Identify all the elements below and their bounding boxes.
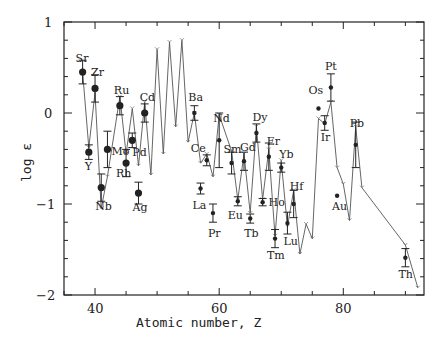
data-point-dy xyxy=(252,124,260,142)
model-curve xyxy=(81,38,420,288)
element-label-cd: Cd xyxy=(140,91,155,104)
element-label-au: Au xyxy=(331,200,347,213)
data-marker xyxy=(129,137,136,144)
element-label-ce: Ce xyxy=(191,142,206,155)
x-tick-label-40: 40 xyxy=(87,301,104,316)
data-marker xyxy=(354,143,358,147)
element-label-sr: Sr xyxy=(76,52,90,65)
data-marker xyxy=(322,121,326,125)
element-label-pd: Pd xyxy=(132,146,146,159)
y-tick-label-1: 1 xyxy=(44,15,52,30)
data-marker xyxy=(192,111,196,115)
data-marker xyxy=(85,149,92,156)
data-marker xyxy=(242,159,246,163)
element-label-ir: Ir xyxy=(321,131,331,144)
data-point-pt xyxy=(327,74,335,101)
element-label-zr: Zr xyxy=(91,66,105,79)
element-label-lu: Lu xyxy=(283,235,297,248)
data-marker xyxy=(329,85,333,89)
data-point-tb xyxy=(246,214,254,223)
data-point-pr xyxy=(209,204,217,222)
data-marker xyxy=(236,199,240,203)
curve-marker xyxy=(168,40,172,42)
y-tick-label-0: 0 xyxy=(44,106,52,121)
data-point-nb xyxy=(97,174,105,201)
data-marker xyxy=(229,161,233,165)
element-label-eu: Eu xyxy=(228,209,243,222)
y-tick-label-neg1: −1 xyxy=(36,197,55,212)
element-label-th: Th xyxy=(398,268,412,281)
data-marker xyxy=(79,68,86,75)
x-axis-title: Atomic number, Z xyxy=(136,315,261,330)
element-label-y: Y xyxy=(84,160,93,173)
data-marker xyxy=(211,211,215,215)
data-marker xyxy=(98,184,105,191)
data-point-yb xyxy=(277,163,285,172)
element-label-yb: Yb xyxy=(278,148,293,161)
data-point-tm xyxy=(271,229,279,247)
element-label-tb: Tb xyxy=(244,227,258,240)
element-label-dy: Dy xyxy=(252,111,268,124)
element-label-hf: Hf xyxy=(290,180,305,193)
data-marker xyxy=(141,109,148,116)
element-label-tm: Tm xyxy=(267,249,285,262)
data-point-os xyxy=(316,106,320,110)
y-axis-title: log ε xyxy=(19,143,34,182)
data-point-lu xyxy=(283,212,291,234)
element-label-ru: Ru xyxy=(114,84,129,97)
data-marker xyxy=(217,138,221,142)
data-marker xyxy=(260,200,264,204)
data-marker xyxy=(335,194,339,198)
data-marker xyxy=(285,221,289,225)
data-point-eu xyxy=(234,197,242,206)
data-marker xyxy=(104,146,111,153)
data-marker xyxy=(122,159,129,166)
data-marker xyxy=(403,255,407,259)
data-marker xyxy=(91,85,98,92)
abundance-chart: SrYZrNbMoRuRhPdAgCdBaLaCePrNdSmEuGdTbDyH… xyxy=(0,0,445,338)
data-marker xyxy=(267,154,271,158)
element-label-la: La xyxy=(193,199,207,212)
curve-marker xyxy=(180,38,184,40)
curve-marker xyxy=(155,47,159,49)
data-point-hf xyxy=(290,190,298,217)
x-tick-label-80: 80 xyxy=(335,301,352,316)
curve-marker xyxy=(130,106,134,108)
data-point-y xyxy=(85,145,93,160)
model-curve-line xyxy=(83,40,418,288)
data-marker xyxy=(316,106,320,110)
data-point-cd xyxy=(141,104,149,122)
element-label-gd: Gd xyxy=(240,141,256,154)
data-marker xyxy=(205,158,209,162)
element-label-ag: Ag xyxy=(131,201,147,214)
element-label-pr: Pr xyxy=(208,227,221,240)
element-label-rh: Rh xyxy=(116,167,131,180)
data-marker xyxy=(273,236,277,240)
data-point-ho xyxy=(259,199,267,206)
element-label-mo: Mo xyxy=(111,145,129,158)
data-marker xyxy=(116,102,123,109)
element-label-pt: Pt xyxy=(325,60,337,73)
data-point-ir xyxy=(321,116,329,131)
element-label-ho: Ho xyxy=(269,196,286,209)
data-point-ba xyxy=(190,106,198,121)
curve-marker xyxy=(316,116,320,118)
x-tick-label-60: 60 xyxy=(211,301,228,316)
data-marker xyxy=(291,202,295,206)
element-label-nb: Nb xyxy=(95,200,112,213)
element-label-ba: Ba xyxy=(188,91,203,104)
element-label-os: Os xyxy=(308,84,323,97)
element-label-er: Er xyxy=(267,135,281,148)
data-marker xyxy=(279,165,283,169)
data-point-la xyxy=(197,183,205,194)
element-label-pb: Pb xyxy=(350,117,364,130)
data-point-mo xyxy=(103,131,111,167)
curve-marker xyxy=(403,243,407,245)
data-marker xyxy=(198,186,202,190)
data-marker xyxy=(254,131,258,135)
y-tick-label-neg2: −2 xyxy=(36,288,55,303)
data-marker xyxy=(135,189,142,196)
element-label-nd: Nd xyxy=(213,112,230,125)
data-point-au xyxy=(335,194,339,198)
data-point-th xyxy=(401,249,409,267)
